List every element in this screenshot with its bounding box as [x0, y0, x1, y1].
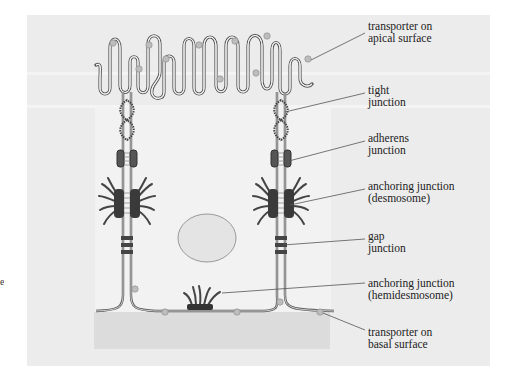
label-line: junction	[368, 144, 409, 156]
label-line: apical surface	[368, 32, 432, 44]
label-line: junction	[368, 96, 406, 108]
label-hemidesmosome: anchoring junction (hemidesmosome)	[368, 277, 455, 301]
label-line: anchoring junction	[368, 277, 455, 289]
label-apical-transporter: transporter on apical surface	[368, 20, 432, 44]
label-line: basal surface	[368, 338, 432, 350]
label-adherens-junction: adherens junction	[368, 132, 409, 156]
label-line: adherens	[368, 132, 409, 144]
label-desmosome: anchoring junction (desmosome)	[368, 180, 455, 204]
hemidesmosome	[184, 286, 220, 305]
label-line: gap	[368, 230, 406, 242]
label-line: tight	[368, 84, 406, 96]
label-line: transporter on	[368, 20, 432, 32]
leader-lines	[222, 33, 365, 330]
junction-complex-right	[253, 100, 309, 254]
junction-complex-left	[99, 100, 155, 254]
label-tight-junction: tight junction	[368, 84, 406, 108]
nucleus	[178, 214, 236, 262]
label-line: (hemidesmosome)	[368, 289, 455, 301]
label-line: anchoring junction	[368, 180, 455, 192]
label-gap-junction: gap junction	[368, 230, 406, 254]
label-line: transporter on	[368, 326, 432, 338]
label-line: (desmosome)	[368, 192, 455, 204]
label-basal-transporter: transporter on basal surface	[368, 326, 432, 350]
label-line: junction	[368, 242, 406, 254]
